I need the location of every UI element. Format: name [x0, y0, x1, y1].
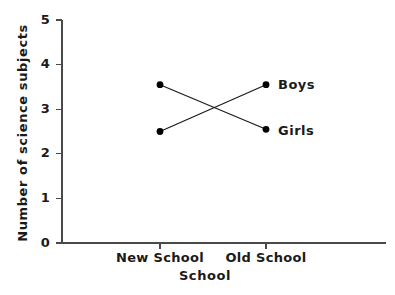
x-tick-label-new-school: New School [116, 250, 204, 265]
y-tick-label-0: 0 [41, 235, 50, 250]
y-axis-ticks [56, 20, 62, 243]
series-boys [157, 81, 270, 135]
y-tick-label-2: 2 [41, 145, 50, 160]
x-tick-label-old-school: Old School [226, 250, 307, 265]
y-axis-tick-labels: 5 4 3 2 1 0 [41, 12, 50, 250]
line-chart: 5 4 3 2 1 0 New School Old School School… [0, 0, 395, 295]
chart-canvas: 5 4 3 2 1 0 New School Old School School… [0, 0, 395, 295]
axes-group [62, 20, 386, 243]
data-point-boys-new-school [157, 128, 164, 135]
data-point-boys-old-school [263, 81, 270, 88]
series-label-girls: Girls [278, 123, 314, 138]
series-label-boys: Boys [278, 77, 315, 92]
data-point-girls-old-school [263, 126, 270, 133]
series-labels: Boys Girls [278, 77, 315, 138]
x-axis-ticks [160, 243, 266, 249]
y-axis-title: Number of science subjects [15, 24, 30, 242]
y-tick-label-3: 3 [41, 101, 50, 116]
x-axis-title: School [179, 268, 231, 283]
y-tick-label-1: 1 [41, 190, 50, 205]
y-tick-label-5: 5 [41, 12, 50, 27]
y-tick-label-4: 4 [41, 56, 50, 71]
x-axis-tick-labels: New School Old School [116, 250, 306, 265]
data-point-girls-new-school [157, 81, 164, 88]
